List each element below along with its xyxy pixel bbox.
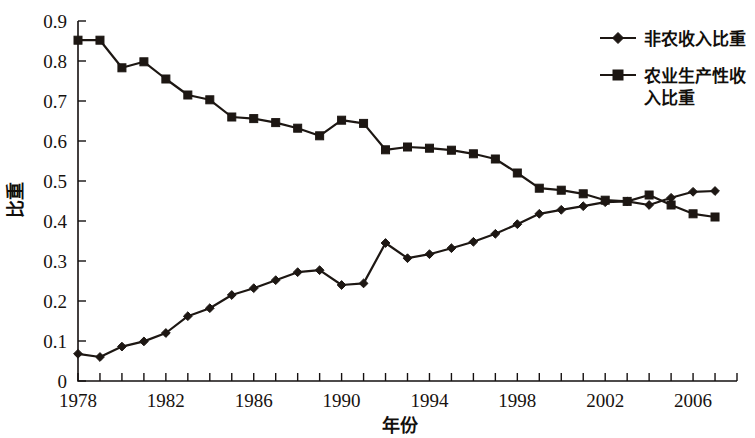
- data-point-marker: [184, 91, 192, 99]
- data-point-marker: [271, 276, 280, 285]
- x-tick-label: 1994: [410, 390, 449, 411]
- y-tick-label: 0.5: [43, 171, 67, 192]
- data-point-marker: [623, 197, 631, 205]
- data-point-marker: [513, 169, 521, 177]
- data-point-marker: [535, 209, 544, 218]
- data-point-marker: [491, 229, 500, 238]
- axis-lines: [78, 21, 737, 381]
- legend-square-icon: [613, 70, 623, 80]
- data-point-marker: [74, 349, 83, 358]
- data-point-marker: [250, 115, 258, 123]
- data-point-marker: [118, 342, 127, 351]
- data-point-marker: [447, 244, 456, 253]
- data-point-marker: [338, 116, 346, 124]
- data-point-marker: [535, 184, 543, 192]
- data-point-marker: [360, 119, 368, 127]
- data-point-marker: [206, 96, 214, 104]
- data-point-marker: [557, 205, 566, 214]
- data-point-marker: [513, 220, 522, 229]
- y-tick-label: 0.7: [43, 91, 67, 112]
- data-point-marker: [140, 58, 148, 66]
- y-axis-title: 比重: [5, 182, 26, 218]
- y-tick-label: 0.8: [43, 51, 67, 72]
- chart-legend: 非农收入比重 农业生产性收 入比重: [600, 29, 746, 108]
- data-point-marker: [689, 187, 698, 196]
- data-point-marker: [96, 36, 104, 44]
- data-point-marker: [249, 284, 258, 293]
- data-point-marker: [425, 144, 433, 152]
- data-point-marker: [404, 143, 412, 151]
- data-point-marker: [645, 191, 653, 199]
- x-tick-label: 1990: [323, 390, 361, 411]
- data-point-marker: [228, 113, 236, 121]
- y-tick-label: 0.6: [43, 131, 67, 152]
- y-tick-label: 0.2: [43, 291, 67, 312]
- legend-diamond-icon: [613, 33, 624, 44]
- x-tick-label: 1978: [59, 390, 97, 411]
- legend-label-agri-line1: 农业生产性收: [643, 66, 746, 86]
- data-point-marker: [689, 210, 697, 218]
- data-point-marker: [557, 186, 565, 194]
- data-point-marker: [118, 64, 126, 72]
- x-tick-label: 1982: [147, 390, 185, 411]
- x-tick-label: 2002: [586, 390, 624, 411]
- y-tick-label: 0.1: [43, 331, 67, 352]
- data-point-marker: [579, 190, 587, 198]
- data-point-marker: [491, 155, 499, 163]
- data-point-marker: [667, 201, 675, 209]
- data-point-marker: [382, 146, 390, 154]
- data-point-marker: [469, 237, 478, 246]
- data-point-marker: [711, 213, 719, 221]
- data-point-marker: [96, 353, 105, 362]
- data-point-marker: [469, 150, 477, 158]
- x-tick-label: 1986: [235, 390, 273, 411]
- data-point-marker: [162, 75, 170, 83]
- data-point-marker: [447, 146, 455, 154]
- legend-label-nonfarm: 非农收入比重: [644, 29, 746, 49]
- data-point-marker: [359, 279, 368, 288]
- data-point-marker: [272, 119, 280, 127]
- data-point-marker: [140, 337, 149, 346]
- y-tick-label: 0: [58, 371, 68, 392]
- y-tick-label: 0.9: [43, 11, 67, 32]
- data-series-layer: [74, 36, 720, 361]
- data-point-marker: [294, 124, 302, 132]
- y-tick-label: 0.4: [43, 211, 67, 232]
- legend-label-agri-line2: 入比重: [644, 88, 695, 108]
- x-tick-label: 2006: [674, 390, 712, 411]
- y-tick-label: 0.3: [43, 251, 67, 272]
- chart-figure: 00.10.20.30.40.50.60.70.80.9 19781982198…: [0, 0, 755, 438]
- data-point-marker: [293, 268, 302, 277]
- axis-tickmarks: [78, 21, 737, 381]
- data-point-marker: [74, 36, 82, 44]
- data-point-marker: [425, 250, 434, 259]
- x-axis-title: 年份: [382, 415, 419, 436]
- data-point-marker: [579, 202, 588, 211]
- data-point-marker: [711, 187, 720, 196]
- series-agricultural: [74, 36, 719, 221]
- data-point-marker: [601, 196, 609, 204]
- x-axis-tick-labels: 19781982198619901994199820022006: [59, 390, 712, 411]
- data-point-marker: [645, 201, 654, 210]
- line-chart: 00.10.20.30.40.50.60.70.80.9 19781982198…: [0, 0, 755, 438]
- y-axis-tick-labels: 00.10.20.30.40.50.60.70.80.9: [43, 11, 67, 392]
- data-point-marker: [316, 132, 324, 140]
- series-nonfarm: [74, 187, 720, 362]
- x-tick-label: 1998: [498, 390, 536, 411]
